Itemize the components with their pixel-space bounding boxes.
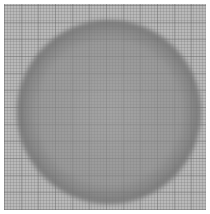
grid-background bbox=[4, 4, 206, 210]
dark-circle bbox=[17, 20, 201, 204]
